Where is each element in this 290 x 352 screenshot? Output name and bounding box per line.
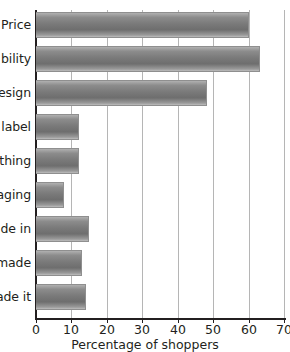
gridline-70 xyxy=(284,10,285,318)
x-axis-title: Percentage of shoppers xyxy=(0,339,290,352)
category-label-4: thing xyxy=(0,155,31,168)
x-tick-label-20: 20 xyxy=(92,324,122,337)
bar-3 xyxy=(36,114,79,140)
category-label-7: made xyxy=(0,257,31,270)
category-label-1: bility xyxy=(1,53,31,66)
category-label-5: aging xyxy=(0,189,31,202)
category-label-3: label xyxy=(1,121,31,134)
x-tick-label-70: 70 xyxy=(269,324,290,337)
x-tick-label-30: 30 xyxy=(127,324,157,337)
x-tick-label-0: 0 xyxy=(21,324,51,337)
x-tick-label-40: 40 xyxy=(163,324,193,337)
bar-1 xyxy=(36,46,260,72)
category-label-0: Price xyxy=(1,19,31,32)
bar-8 xyxy=(36,284,86,310)
category-label-2: esign xyxy=(0,87,31,100)
bar-6 xyxy=(36,216,89,242)
bar-2 xyxy=(36,80,207,106)
bar-0 xyxy=(36,12,249,38)
x-tick-label-60: 60 xyxy=(234,324,264,337)
bar-chart: Price bility esign label thing aging de … xyxy=(0,0,290,352)
bar-5 xyxy=(36,182,64,208)
bar-4 xyxy=(36,148,79,174)
category-label-8: ade it xyxy=(0,291,31,304)
category-label-6: de in xyxy=(1,223,32,236)
category-axis-labels: Price bility esign label thing aging de … xyxy=(0,0,34,352)
x-tick-label-10: 10 xyxy=(56,324,86,337)
plot-area xyxy=(36,10,285,318)
bar-7 xyxy=(36,250,82,276)
x-tick-label-50: 50 xyxy=(198,324,228,337)
